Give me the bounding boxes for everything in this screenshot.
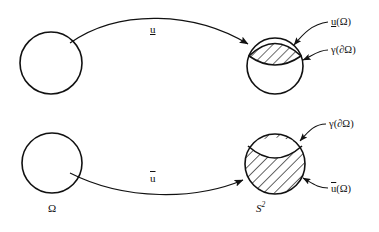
map-arrow-u-underline [70,18,248,44]
leader-line-image-omega-lower [303,178,328,188]
diagram-canvas [0,0,379,232]
figure-root: u u u(Ω) γ(∂Ω) γ(∂Ω) u(Ω) Ω S2 [0,0,379,232]
codomain-label-s2-exponent: 2 [262,200,266,209]
map-label-u-glyph-upper: u [150,23,156,35]
annotation-image-of-omega-lower: u(Ω) [331,184,351,195]
annotation-gamma-text-lower: γ(∂Ω) [329,118,354,129]
leader-line-gamma-lower [300,124,326,141]
annotation-u-args-lower: (Ω) [336,183,351,194]
annotation-u-args-upper: (Ω) [336,16,351,27]
leader-line-image-omega-upper [294,22,328,45]
map-arrow-label-u-underline: u [150,24,156,35]
annotation-image-of-omega-upper: u(Ω) [331,17,351,28]
annotation-gamma-boundary-lower: γ(∂Ω) [329,119,354,130]
map-label-u-glyph-lower: u [150,172,156,184]
annotation-gamma-text-upper: γ(∂Ω) [331,44,356,55]
map-arrow-u-overline [70,173,243,195]
annotation-gamma-boundary-upper: γ(∂Ω) [331,45,356,56]
codomain-label-s2: S2 [256,201,265,214]
hatched-region-lower [243,132,309,198]
domain-label-omega-text: Ω [48,202,56,214]
map-arrow-label-u-overline: u [150,173,156,184]
omega-circle-lower [22,133,82,193]
leader-line-gamma-upper [303,50,328,60]
domain-label-omega: Ω [48,203,56,214]
